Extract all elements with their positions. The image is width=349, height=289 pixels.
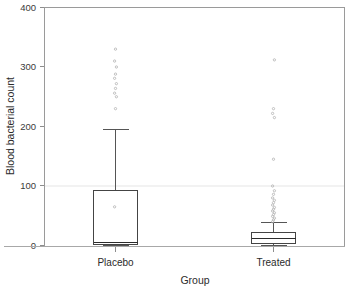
- placebo-iqr-box: [94, 190, 138, 245]
- treated-box: [252, 232, 296, 243]
- boxplot-group-placebo: [94, 48, 138, 246]
- placebo-outlier-point: [114, 108, 116, 110]
- plot-frame: [45, 8, 345, 246]
- placebo-outlier-point: [113, 60, 115, 62]
- treated-outlier-point: [273, 199, 275, 201]
- x-category-label-placebo: Placebo: [97, 257, 134, 268]
- x-category-label-treated: Treated: [256, 257, 290, 268]
- boxplot-group-treated: [252, 59, 296, 246]
- boxplot-figure: 0 100 200 300 400 Blood bacterial count …: [0, 0, 349, 289]
- treated-outlier-point: [271, 112, 273, 114]
- placebo-outlier-point: [113, 92, 115, 94]
- treated-outlier-point: [273, 59, 275, 61]
- y-tick-label-0: 0: [31, 240, 36, 251]
- y-tick-label-300: 300: [20, 61, 36, 72]
- placebo-outlier-point: [113, 77, 115, 79]
- placebo-box: [94, 190, 138, 245]
- treated-outlier-point: [271, 197, 273, 199]
- placebo-outlier-point: [114, 87, 116, 89]
- treated-outlier-point: [272, 108, 274, 110]
- y-axis-ticks: [40, 8, 44, 246]
- treated-outlier-point: [273, 206, 275, 208]
- placebo-outlier-point: [114, 73, 116, 75]
- placebo-outlier-point: [115, 96, 117, 98]
- y-tick-label-200: 200: [20, 121, 36, 132]
- treated-outlier-point: [273, 190, 275, 192]
- treated-outliers: [271, 59, 275, 223]
- plot-gridlines: [45, 186, 344, 187]
- chart-canvas: 0 100 200 300 400 Blood bacterial count …: [0, 0, 349, 289]
- treated-outlier-point: [272, 158, 274, 160]
- x-axis-ticks: [116, 247, 274, 252]
- treated-outlier-point: [273, 116, 275, 118]
- y-tick-label-400: 400: [20, 2, 36, 13]
- placebo-outlier-point: [115, 66, 117, 68]
- placebo-outlier-point: [114, 48, 116, 50]
- placebo-outlier-point: [115, 83, 117, 85]
- x-axis-title: Group: [180, 274, 209, 286]
- y-axis-title: Blood bacterial count: [4, 77, 16, 175]
- treated-outlier-point: [272, 193, 274, 195]
- y-tick-label-100: 100: [20, 180, 36, 191]
